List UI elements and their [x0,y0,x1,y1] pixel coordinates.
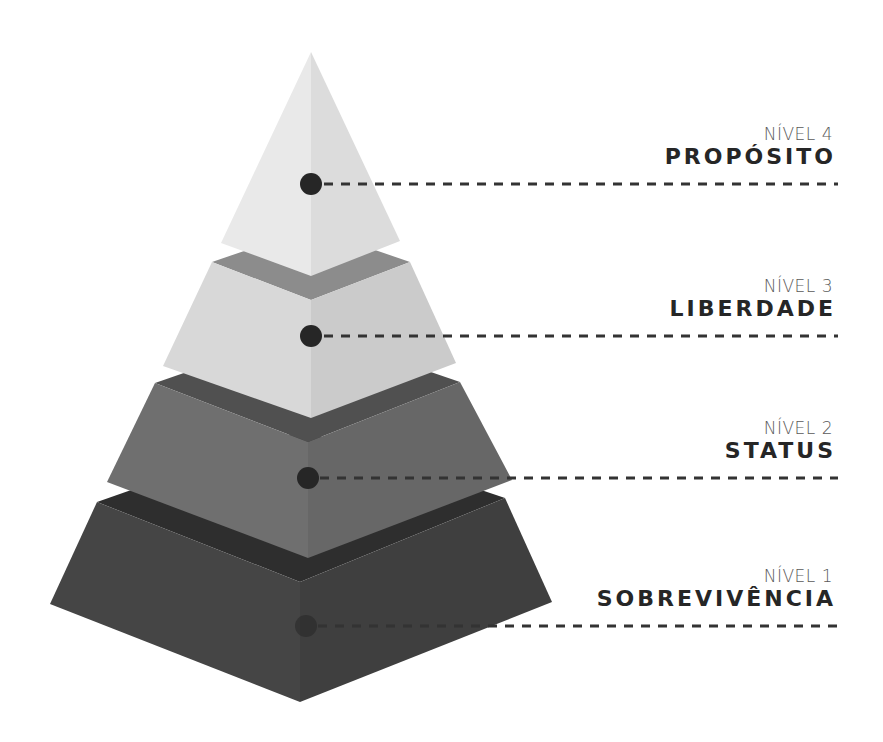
marker-dot [297,467,319,489]
level-name: STATUS [725,438,836,464]
tier-4-right-face [311,52,400,276]
label-level-1: NÍVEL 1 SOBREVIVÊNCIA [597,566,833,612]
level-name: PROPÓSITO [665,144,836,170]
pyramid-graphic [0,0,883,742]
level-name: LIBERDADE [669,296,836,322]
level-name: SOBREVIVÊNCIA [597,586,836,612]
tier-4-left-face [221,52,311,276]
level-number: NÍVEL 1 [597,566,833,586]
pyramid-tier-4 [221,52,400,276]
level-number: NÍVEL 4 [665,124,833,144]
leader-level-4 [300,173,838,195]
marker-dot [295,615,317,637]
level-number: NÍVEL 2 [725,418,833,438]
pyramid-diagram: NÍVEL 4 PROPÓSITO NÍVEL 3 LIBERDADE NÍVE… [0,0,883,742]
level-number: NÍVEL 3 [669,276,833,296]
marker-dot [300,325,322,347]
marker-dot [300,173,322,195]
label-level-2: NÍVEL 2 STATUS [725,418,833,464]
label-level-3: NÍVEL 3 LIBERDADE [669,276,833,322]
label-level-4: NÍVEL 4 PROPÓSITO [665,124,833,170]
